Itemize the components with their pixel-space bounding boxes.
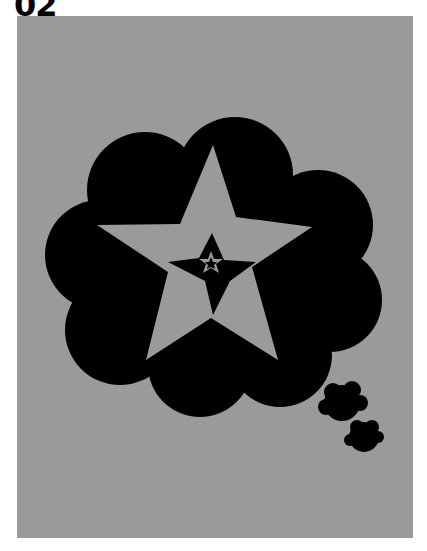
small-bubble-2	[344, 420, 384, 452]
small-bubble-1	[318, 381, 368, 421]
thought-bubble-artwork	[0, 0, 427, 551]
